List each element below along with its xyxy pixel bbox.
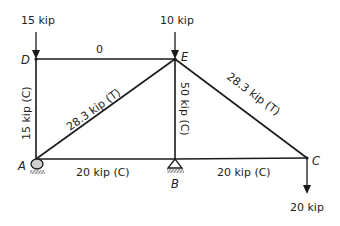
load-label-c: 20 kip bbox=[290, 201, 324, 214]
load-arrow-e-icon bbox=[171, 32, 179, 59]
node-label-e: E bbox=[181, 50, 189, 64]
force-label-be: 50 kip (C) bbox=[178, 82, 191, 136]
node-label-d: D bbox=[21, 53, 30, 67]
node-label-a: A bbox=[17, 159, 26, 173]
force-label-ce: 28.3 kip (T) bbox=[224, 70, 282, 118]
force-label-ad: 15 kip (C) bbox=[20, 86, 33, 140]
node-label-b: B bbox=[171, 177, 179, 191]
force-label-ae: 28.3 kip (T) bbox=[64, 86, 123, 133]
load-label-e: 10 kip bbox=[160, 14, 194, 27]
force-label-ab: 20 kip (C) bbox=[76, 166, 130, 179]
load-arrow-d-icon bbox=[32, 32, 40, 59]
member-ce bbox=[175, 59, 307, 158]
force-label-bc: 20 kip (C) bbox=[217, 166, 271, 179]
force-label-de: 0 bbox=[96, 43, 103, 56]
roller-support-icon bbox=[30, 159, 45, 174]
pin-support-icon bbox=[167, 159, 184, 173]
load-label-d: 15 kip bbox=[21, 14, 55, 27]
node-label-c: C bbox=[312, 154, 320, 168]
load-arrow-c-icon bbox=[303, 158, 311, 194]
member-bc bbox=[175, 158, 307, 159]
truss-diagram: 15 kip 10 kip 20 kip D E A B C 0 15 kip … bbox=[0, 0, 340, 226]
